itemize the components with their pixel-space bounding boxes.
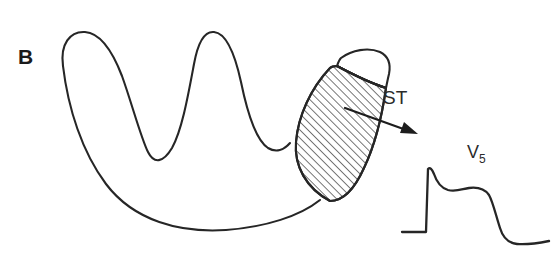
ecg-lead-letter: V <box>467 142 479 162</box>
ecg-waveform-v5 <box>402 168 549 244</box>
st-leader-arrow-head <box>400 122 418 134</box>
epicardial-wall-contour <box>63 66 320 230</box>
infarct-hatch-fill <box>296 66 386 201</box>
ecg-lead-label: V5 <box>467 142 486 166</box>
ventricle-st-elevation-diagram: B ST V5 <box>0 0 557 254</box>
ecg-lead-subscript: 5 <box>479 152 486 166</box>
figure-panel-b: B ST V5 <box>0 0 557 254</box>
st-segment-label: ST <box>383 87 408 108</box>
panel-label: B <box>18 45 34 68</box>
endocardial-wall-contour <box>62 32 290 160</box>
